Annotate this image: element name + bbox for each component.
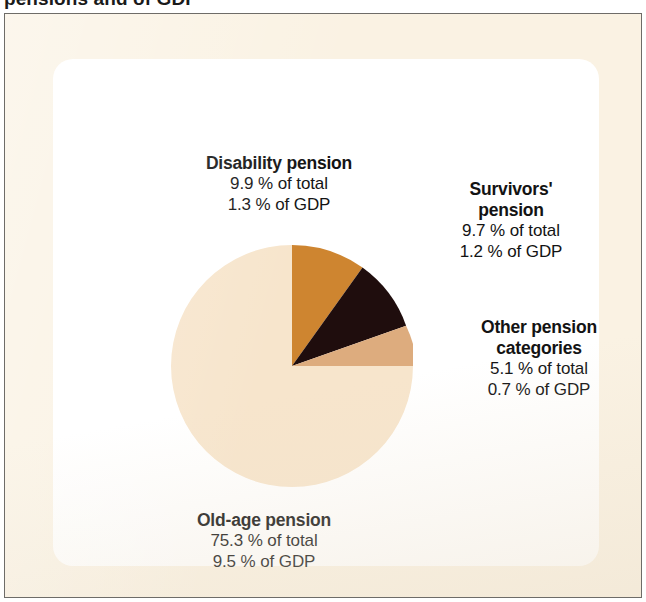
pie-label-other-pension-categories: Other pension categories 5.1 % of total … [439, 317, 639, 400]
pie-label-disability-title: Disability pension [165, 153, 393, 174]
pie-label-old-age-title: Old-age pension [139, 510, 389, 531]
pie-label-disability-share-total: 9.9 % of total [165, 174, 393, 195]
figure-caption: pensions and of GDP [4, 0, 198, 10]
pie-label-survivors-pension: Survivors' pension 9.7 % of total 1.2 % … [421, 179, 601, 262]
pie-label-survivors-title-line1: Survivors' [421, 179, 601, 200]
pie-label-other-title-line2: categories [439, 338, 639, 359]
pie-label-disability-share-gdp: 1.3 % of GDP [165, 195, 393, 216]
pie-label-survivors-title-line2: pension [421, 200, 601, 221]
pie-label-survivors-share-total: 9.7 % of total [421, 221, 601, 242]
figure-caption-clip: pensions and of GDP [0, 0, 646, 13]
pie-label-old-age-share-gdp: 9.5 % of GDP [139, 552, 389, 573]
pie-label-other-share-total: 5.1 % of total [439, 359, 639, 380]
pie-label-disability-pension: Disability pension 9.9 % of total 1.3 % … [165, 153, 393, 215]
pie-label-other-title-line1: Other pension [439, 317, 639, 338]
pie-chart-svg [171, 245, 413, 487]
pie-chart [171, 245, 413, 487]
figure-frame: Disability pension 9.9 % of total 1.3 % … [4, 13, 642, 598]
pie-label-old-age-share-total: 75.3 % of total [139, 531, 389, 552]
pie-label-survivors-share-gdp: 1.2 % of GDP [421, 242, 601, 263]
chart-panel: Disability pension 9.9 % of total 1.3 % … [53, 59, 599, 566]
pie-label-other-share-gdp: 0.7 % of GDP [439, 380, 639, 401]
pie-label-old-age-pension: Old-age pension 75.3 % of total 9.5 % of… [139, 510, 389, 572]
